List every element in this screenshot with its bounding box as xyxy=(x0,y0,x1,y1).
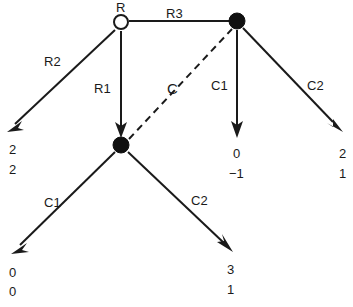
payoff-leaf-c-top: 0 xyxy=(233,147,240,160)
edge-c2-right-line xyxy=(243,28,333,122)
node-right-circle[interactable] xyxy=(229,13,245,29)
edge-c1-mid-line xyxy=(20,152,115,245)
payoff-leaf-f-bottom: 1 xyxy=(227,283,234,296)
payoff-leaf-d-top: 2 xyxy=(339,147,346,160)
node-root-circle[interactable] xyxy=(114,15,128,29)
edge-c2-mid-arrowhead xyxy=(217,234,233,252)
edge-c-label: C xyxy=(167,81,178,96)
payoff-leaf-d-bottom: 1 xyxy=(339,167,346,180)
edge-c1-mid-label: C1 xyxy=(44,196,61,209)
payoff-leaf-e-top: 0 xyxy=(9,266,16,279)
edge-r2-label: R2 xyxy=(44,55,61,68)
edge-c2-right-label: C2 xyxy=(307,79,324,92)
edge-r2-line xyxy=(15,30,115,124)
edge-c2-mid-line xyxy=(128,152,224,243)
payoff-leaf-a-top: 2 xyxy=(9,143,16,156)
edge-c2-mid-label: C2 xyxy=(191,194,208,207)
diagram-canvas xyxy=(0,0,353,307)
payoff-leaf-e-bottom: 0 xyxy=(9,285,16,298)
payoff-leaf-f-top: 3 xyxy=(227,263,234,276)
edge-c1-right-label: C1 xyxy=(211,79,228,92)
payoff-leaf-a-bottom: 2 xyxy=(9,163,16,176)
game-tree-diagram: R R3 R2 R1 C C1 C2 C1 C2 2 2 0 −1 2 1 0 … xyxy=(0,0,353,307)
payoff-leaf-c-bottom: −1 xyxy=(229,167,244,180)
node-root-label: R xyxy=(116,1,125,14)
edge-c2-arrowhead-right xyxy=(327,119,343,132)
node-middle-circle[interactable] xyxy=(113,137,129,153)
edge-r1-label: R1 xyxy=(94,82,111,95)
edge-r3-label: R3 xyxy=(166,7,183,20)
